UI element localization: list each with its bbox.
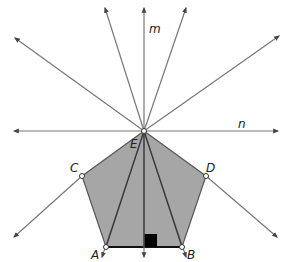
- ray-upper-right: [144, 36, 279, 131]
- label-m: m: [149, 22, 161, 36]
- ray-through-C: [14, 176, 82, 237]
- label-C: C: [70, 161, 79, 175]
- label-A: A: [90, 248, 99, 262]
- label-B: B: [187, 248, 195, 262]
- point-B: [180, 245, 185, 250]
- label-E: E: [130, 137, 138, 151]
- pentagon-symmetry-diagram: m n E C D A B: [0, 0, 289, 262]
- right-angle-marker: [144, 234, 157, 247]
- ray-upper-left-steep: [105, 8, 144, 131]
- label-D: D: [206, 161, 215, 175]
- point-E: [142, 129, 147, 134]
- point-C: [80, 174, 85, 179]
- point-A: [104, 245, 109, 250]
- ray-upper-left: [15, 38, 144, 131]
- label-n: n: [238, 117, 246, 131]
- ray-through-D: [206, 176, 277, 237]
